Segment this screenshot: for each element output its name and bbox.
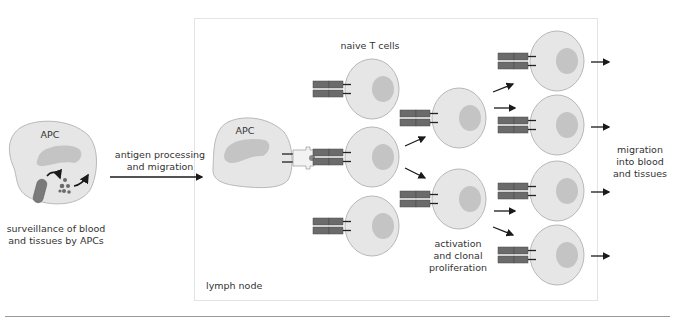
activated-t-cell-2 <box>400 169 486 229</box>
left-apc-label: APC <box>30 129 70 141</box>
migration-exit-label: migration into blood and tissues <box>605 144 675 180</box>
naive-t-cell-2-engaged <box>313 127 399 187</box>
lymph-node-label: lymph node <box>206 280 286 292</box>
surveillance-caption: surveillance of blood and tissues by APC… <box>0 223 112 247</box>
activation-label: activation and clonal proliferation <box>420 238 496 274</box>
effector-t-cell-3 <box>498 161 584 221</box>
activated-t-cell-1 <box>400 88 486 148</box>
antigen-processing-label: antigen processing and migration <box>105 149 215 173</box>
naive-t-cell-1 <box>313 59 399 119</box>
lymph-node-apc-label: APC <box>225 125 265 137</box>
effector-t-cell-2 <box>498 95 584 155</box>
naive-t-cells-label: naive T cells <box>330 40 410 52</box>
naive-t-cell-3 <box>313 196 399 256</box>
effector-t-cell-1 <box>498 31 584 91</box>
